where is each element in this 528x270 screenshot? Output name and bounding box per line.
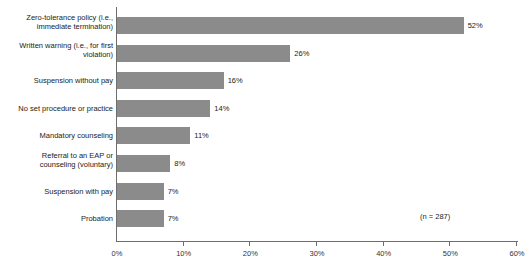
bar-chart: Zero-tolerance policy (i.e., immediate t… [0,0,528,270]
bar-value-label: 52% [468,21,483,30]
bar-row: Suspension without pay16% [0,72,528,89]
bar [117,183,164,200]
x-axis-tick-label: 10% [176,249,191,258]
bar-row: Zero-tolerance policy (i.e., immediate t… [0,17,528,34]
x-axis-tick [449,241,450,246]
category-label: Probation [5,214,113,223]
bar-value-label: 16% [228,76,243,85]
bar-value-label: 14% [214,104,229,113]
bar [117,72,224,89]
bar-row: Suspension with pay7% [0,183,528,200]
x-axis-tick-label: 20% [243,249,258,258]
category-label: Mandatory counseling [5,131,113,140]
sample-size-annotation: (n = 287) [420,212,450,221]
x-axis-tick [183,241,184,246]
bar [117,155,170,172]
bar [117,127,190,144]
bar-value-label: 26% [294,49,309,58]
x-axis-tick-label: 60% [509,249,524,258]
y-axis-line [116,7,117,241]
bar-value-label: 7% [168,214,179,223]
x-axis-tick-label: 30% [309,249,324,258]
category-label: No set procedure or practice [5,104,113,113]
x-axis-tick-label: 50% [443,249,458,258]
x-axis-tick [516,241,517,246]
x-axis-line [116,241,518,242]
bar-row: Mandatory counseling11% [0,127,528,144]
category-label: Written warning (i.e., for first violati… [5,41,113,59]
x-axis-tick [316,241,317,246]
bar-value-label: 7% [168,187,179,196]
bar [117,100,210,117]
x-axis-tick [249,241,250,246]
category-label: Zero-tolerance policy (i.e., immediate t… [5,13,113,31]
x-axis-tick-label: 40% [376,249,391,258]
x-axis-tick [383,241,384,246]
category-label: Suspension without pay [5,76,113,85]
bar-value-label: 11% [194,131,208,140]
bar-row: Written warning (i.e., for first violati… [0,45,528,62]
bar [117,45,290,62]
category-label: Referral to an EAP or counseling (volunt… [5,151,113,169]
bar-row: Referral to an EAP or counseling (volunt… [0,155,528,172]
bar-row: No set procedure or practice14% [0,100,528,117]
bar [117,17,464,34]
x-axis-tick-label: 0% [112,249,123,258]
bar-value-label: 8% [174,159,185,168]
category-label: Suspension with pay [5,187,113,196]
bar [117,210,164,227]
